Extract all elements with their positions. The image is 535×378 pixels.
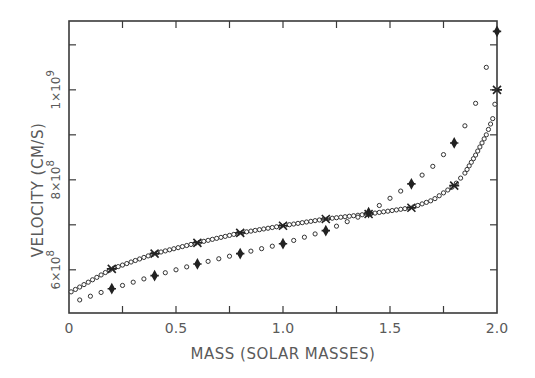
data-point [469, 160, 473, 164]
x-tick-label: 2.0 [486, 320, 508, 336]
velocity-mass-chart: 00.51.01.52.0 6×1088×1081×109 MASS (SOLA… [0, 0, 535, 378]
svg-text:8×108: 8×108 [45, 160, 63, 199]
data-point [491, 117, 495, 121]
data-point [352, 214, 356, 218]
data-point [82, 283, 86, 287]
data-point [90, 278, 94, 282]
data-point [484, 133, 488, 137]
data-point [486, 127, 490, 131]
data-point [217, 257, 221, 261]
diamond-marker-icon [450, 139, 458, 147]
x-tick-labels: 00.51.01.52.0 [65, 320, 509, 336]
y-tick-label: 8×108 [45, 160, 63, 199]
data-point [493, 102, 497, 106]
data-point [478, 145, 482, 149]
svg-text:6×108: 6×108 [45, 250, 63, 289]
data-point [86, 280, 90, 284]
data-point [227, 254, 231, 258]
data-point [420, 173, 424, 177]
data-point [399, 207, 403, 211]
data-point [227, 233, 231, 237]
data-point [69, 290, 73, 294]
data-point [146, 254, 150, 258]
data-point [167, 248, 171, 252]
data-point [88, 294, 92, 298]
data-point [399, 189, 403, 193]
data-point [270, 244, 274, 248]
data-point [334, 224, 338, 228]
data-point [163, 271, 167, 275]
data-point [334, 216, 338, 220]
data-point [120, 283, 124, 287]
data-point [465, 167, 469, 171]
data-point [441, 153, 445, 157]
data-point [480, 141, 484, 145]
star-marker-icon [278, 222, 288, 230]
data-point [394, 208, 398, 212]
x-tick-label: 1.5 [379, 320, 401, 336]
data-point [474, 153, 478, 157]
data-point [386, 209, 390, 213]
data-point [253, 228, 257, 232]
diamond-marker-icon [493, 27, 501, 35]
data-point [133, 258, 137, 262]
data-point [377, 203, 381, 207]
data-point [429, 199, 433, 203]
data-point [424, 200, 428, 204]
data-point [266, 226, 270, 230]
data-point [302, 235, 306, 239]
data-point [313, 219, 317, 223]
data-point [309, 219, 313, 223]
data-point [446, 188, 450, 192]
star-marker-icon [235, 229, 245, 237]
star-marker-icon [321, 215, 331, 223]
data-point [99, 290, 103, 294]
y-tick-labels: 6×1088×1081×109 [45, 70, 63, 289]
data-point [142, 255, 146, 259]
data-point [223, 234, 227, 238]
data-point [249, 229, 253, 233]
data-point [270, 225, 274, 229]
data-point [116, 265, 120, 269]
data-point [420, 202, 424, 206]
data-point [206, 259, 210, 263]
diamond-marker-icon [407, 180, 415, 188]
data-point [131, 280, 135, 284]
x-tick-label: 0 [65, 320, 74, 336]
x-tick-label: 0.5 [165, 320, 187, 336]
data-point [129, 260, 133, 264]
data-point [390, 208, 394, 212]
data-point [433, 197, 437, 201]
data-point [257, 228, 261, 232]
data-point [125, 261, 129, 265]
data-point [185, 243, 189, 247]
data-point [431, 164, 435, 168]
data-point [292, 238, 296, 242]
series-layer [69, 27, 502, 302]
data-point [339, 215, 343, 219]
svg-text:1×109: 1×109 [45, 70, 63, 109]
data-point [262, 227, 266, 231]
data-point [172, 247, 176, 251]
data-point [482, 137, 486, 141]
y-tick-label: 6×108 [45, 250, 63, 289]
data-point [313, 232, 317, 236]
data-point [174, 268, 178, 272]
data-point [476, 149, 480, 153]
data-point [210, 237, 214, 241]
diamond-marker-icon [236, 249, 244, 257]
diamond-marker-icon [108, 285, 116, 293]
y-axis-title: VELOCITY (CM/S) [29, 123, 47, 258]
y-tick-label: 1×109 [45, 70, 63, 109]
diamond-marker-icon [279, 240, 287, 248]
data-point [215, 236, 219, 240]
data-point [103, 270, 107, 274]
data-point [300, 221, 304, 225]
data-point [138, 257, 142, 261]
data-point [95, 275, 99, 279]
data-point [441, 191, 445, 195]
data-point [345, 220, 349, 224]
data-point [437, 194, 441, 198]
data-point [488, 122, 492, 126]
star-marker-icon [107, 265, 117, 273]
